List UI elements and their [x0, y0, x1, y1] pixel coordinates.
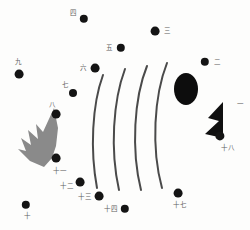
point-label-12: 十二: [60, 183, 74, 190]
point-label-4: 四: [70, 10, 77, 17]
point-label-9: 九: [15, 59, 22, 66]
point-dot-3[interactable]: [151, 27, 160, 36]
point-dot-12[interactable]: [76, 178, 85, 187]
point-dot-6[interactable]: [91, 64, 100, 73]
point-dot-11[interactable]: [52, 154, 61, 163]
point-dot-17[interactable]: [174, 189, 183, 198]
point-label-7: 七: [62, 82, 69, 89]
point-label-14: 十四: [104, 206, 118, 213]
arc-4: [155, 63, 167, 188]
point-label-10: 十: [24, 213, 31, 220]
point-label-5: 五: [106, 45, 113, 52]
point-label-3: 三: [164, 28, 171, 35]
point-label-17: 十七: [173, 202, 187, 209]
point-label-13: 十三: [78, 194, 92, 201]
point-label-18: 十八: [221, 145, 235, 152]
point-label-11: 十一: [53, 168, 67, 175]
arc-3: [135, 66, 147, 190]
point-dot-9[interactable]: [15, 70, 24, 79]
point-label-8: 八: [49, 102, 56, 109]
point-dot-13[interactable]: [95, 192, 104, 201]
point-label-1: 一: [237, 101, 244, 108]
point-label-2: 二: [214, 59, 221, 66]
arc-group: [93, 63, 167, 190]
dot-to-dot-diagram: 一二三四五六七八九十十一十二十三十四十七十八: [0, 0, 250, 230]
point-label-6: 六: [80, 65, 87, 72]
arc-2: [114, 69, 125, 190]
point-dot-8[interactable]: [52, 110, 61, 119]
center-ellipse: [174, 73, 198, 105]
arc-1: [93, 75, 103, 188]
diagram-artwork: [0, 0, 250, 230]
point-dot-7[interactable]: [69, 89, 77, 97]
